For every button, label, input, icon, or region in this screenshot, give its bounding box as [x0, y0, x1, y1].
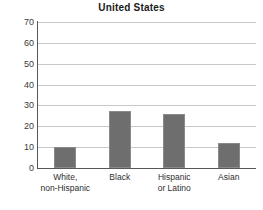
gridline [38, 43, 256, 44]
y-tick-label: 10 [24, 142, 34, 152]
x-tick-label-line: Hispanic [147, 172, 202, 183]
bar-chart: United States 010203040506070 White,non-… [0, 0, 263, 210]
x-tick-label-line: Asian [202, 172, 257, 183]
bar [109, 111, 131, 168]
gridline [38, 85, 256, 86]
x-tick-label: White,non-Hispanic [38, 172, 93, 193]
y-tick-label: 40 [24, 80, 34, 90]
x-tick-label-line: White, [38, 172, 93, 183]
x-tick-label-line: or Latino [147, 183, 202, 194]
gridline [38, 22, 256, 23]
gridline [38, 126, 256, 127]
gridline [38, 105, 256, 106]
bar [218, 143, 240, 168]
y-tick-label: 70 [24, 17, 34, 27]
y-tick-label: 50 [24, 59, 34, 69]
y-tick-label: 60 [24, 38, 34, 48]
x-tick-label: Black [93, 172, 148, 183]
x-tick-label: Asian [202, 172, 257, 183]
gridline [38, 64, 256, 65]
plot-area: 010203040506070 [38, 22, 256, 168]
x-tick-label-line: Black [93, 172, 148, 183]
y-tick-label: 0 [29, 163, 34, 173]
bar [54, 147, 76, 168]
x-axis-line [37, 168, 256, 169]
bar [163, 114, 185, 168]
y-tick-label: 30 [24, 100, 34, 110]
chart-title: United States [0, 2, 263, 13]
y-tick-label: 20 [24, 121, 34, 131]
x-tick-label-line: non-Hispanic [38, 183, 93, 194]
x-tick-label: Hispanicor Latino [147, 172, 202, 193]
